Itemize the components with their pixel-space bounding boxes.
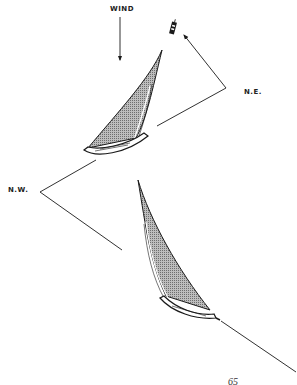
wind-label: WIND bbox=[110, 5, 134, 13]
course-line-nw bbox=[40, 160, 122, 250]
sailing-diagram bbox=[0, 0, 297, 385]
page-number: 65 bbox=[228, 376, 238, 385]
boat-upper bbox=[84, 50, 162, 154]
course-line-ne bbox=[157, 35, 226, 126]
mark-buoy-icon bbox=[169, 19, 178, 35]
north-east-label: N.E. bbox=[244, 88, 262, 96]
course-line-start bbox=[221, 321, 296, 372]
north-west-label: N.W. bbox=[8, 186, 28, 194]
boat-lower bbox=[138, 180, 220, 320]
